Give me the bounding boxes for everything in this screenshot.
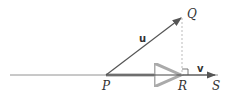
point-label-p: P: [102, 80, 110, 92]
vector-u: [106, 18, 181, 75]
point-label-r: R: [178, 80, 187, 92]
point-label-s: S: [212, 80, 220, 92]
projection-diagram: Q P R S u v: [0, 0, 243, 97]
vector-label-v: v: [197, 64, 204, 74]
diagram-canvas: [0, 0, 243, 97]
vector-label-u: u: [139, 34, 146, 44]
right-angle-marker: [182, 69, 188, 75]
point-label-q: Q: [187, 8, 197, 20]
